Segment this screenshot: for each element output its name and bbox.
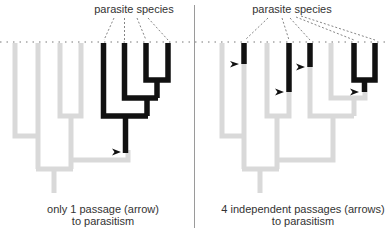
- left-caption-line1: only 1 passage (arrow): [47, 204, 159, 216]
- right-transition-arrow-3: [296, 64, 305, 71]
- right-transition-arrow-4: [350, 89, 359, 96]
- left-pointer-lines: [104, 18, 168, 40]
- left-caption: only 1 passage (arrow) to parasitism: [47, 204, 159, 227]
- right-caption-line2: to parasitism: [221, 216, 384, 228]
- left-caption-line2: to parasitism: [47, 216, 159, 228]
- phylogeny-diagram: [0, 0, 388, 235]
- right-free-living-branches: [222, 43, 365, 193]
- left-parasite-species-label: parasite species: [94, 4, 174, 15]
- left-parasite-clade: [104, 43, 169, 153]
- right-tree: [222, 16, 375, 193]
- right-parasite-species-label: parasite species: [252, 4, 332, 15]
- right-transition-arrow-2: [275, 89, 284, 96]
- right-transition-arrow-1: [230, 61, 239, 68]
- left-tree: [15, 18, 168, 193]
- right-caption-line1: 4 independent passages (arrows): [221, 204, 384, 216]
- right-pointer-lines: [245, 16, 375, 40]
- left-transition-arrow: [112, 149, 121, 156]
- right-transition-arrows: [230, 61, 359, 96]
- right-caption: 4 independent passages (arrows) to paras…: [221, 204, 384, 227]
